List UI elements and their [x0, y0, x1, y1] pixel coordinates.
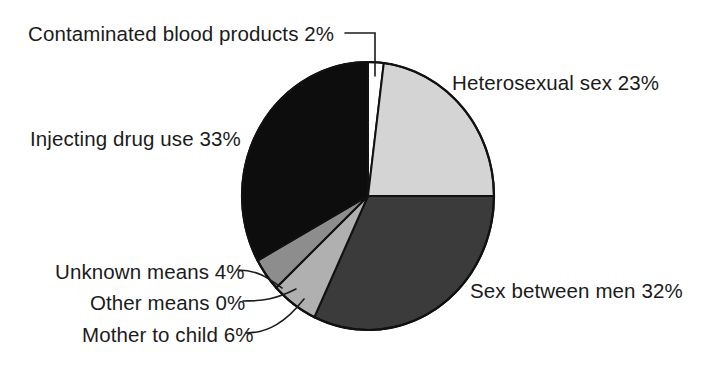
pie-label-unknown-means: Unknown means 4% [55, 262, 245, 283]
pie-label-mother-to-child: Mother to child 6% [82, 325, 254, 346]
pie-label-sex-between-men: Sex between men 32% [470, 281, 683, 302]
pie-chart-graphic [0, 0, 704, 375]
pie-slices [242, 62, 494, 330]
pie-label-other-means: Other means 0% [90, 293, 245, 314]
pie-chart: Contaminated blood products 2% Heterosex… [0, 0, 704, 375]
pie-label-contaminated-blood-products: Contaminated blood products 2% [28, 24, 334, 45]
pie-label-injecting-drug-use: Injecting drug use 33% [30, 129, 241, 150]
pie-label-heterosexual-sex: Heterosexual sex 23% [452, 73, 659, 94]
